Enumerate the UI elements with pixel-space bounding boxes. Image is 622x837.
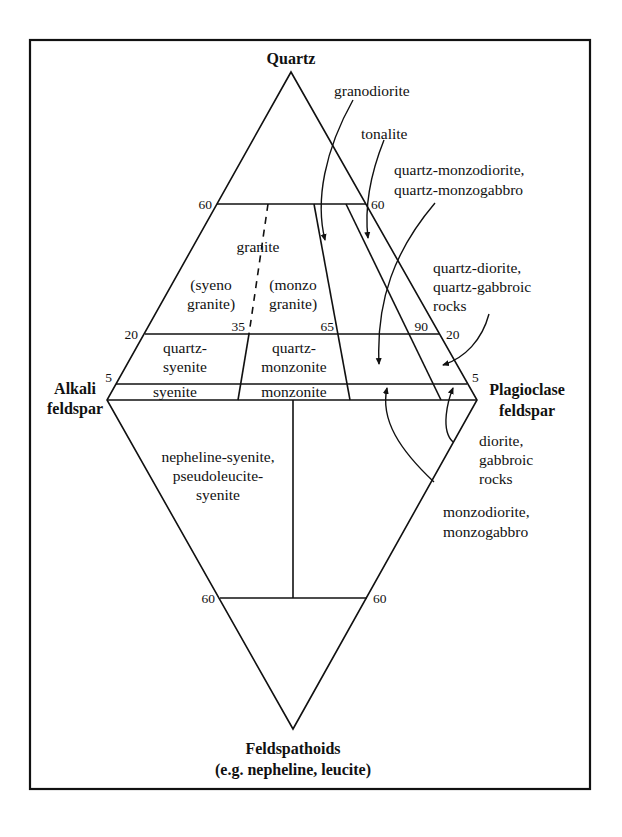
callout-diorite-1: diorite, xyxy=(479,432,523,449)
vertex-plagioclase-1: Plagioclase xyxy=(489,381,565,399)
tick-f60-right: 60 xyxy=(373,591,387,606)
tick-p65: 65 xyxy=(321,319,335,334)
tick-q60-left: 60 xyxy=(199,197,213,212)
field-quartz-monzonite-2: monzonite xyxy=(261,358,327,375)
p90-line xyxy=(346,204,441,400)
field-nepheline-syenite-1: nepheline-syenite, xyxy=(161,448,274,465)
field-quartz-monzonite-1: quartz- xyxy=(272,339,316,356)
granodiorite-arrow xyxy=(321,100,353,240)
callout-qmonzodiorite-1: quartz-monzodiorite, xyxy=(394,161,524,178)
field-monzogranite-1: (monzo xyxy=(269,276,317,294)
p35-line xyxy=(238,334,249,400)
callout-diorite-3: rocks xyxy=(479,470,513,487)
qmonzodiorite-arrow xyxy=(379,203,435,364)
vertex-alkali-feldspar-1: Alkali xyxy=(54,380,96,397)
field-granite: granite xyxy=(236,238,279,255)
callout-diorite-2: gabbroic xyxy=(479,451,533,468)
tick-q60-right: 60 xyxy=(371,197,385,212)
tick-q20-left: 20 xyxy=(125,327,139,342)
tonalite-arrow xyxy=(367,140,384,238)
tick-p90: 90 xyxy=(415,319,429,334)
field-syenogranite-2: granite) xyxy=(187,295,235,313)
vertex-feldspathoids-2: (e.g. nepheline, leucite) xyxy=(215,761,371,779)
tick-q5-right: 5 xyxy=(472,370,479,385)
vertex-quartz: Quartz xyxy=(267,50,316,67)
tick-p35: 35 xyxy=(232,319,246,334)
vertex-alkali-feldspar-2: feldspar xyxy=(47,400,103,418)
p35-dashed-line xyxy=(249,204,268,334)
field-nepheline-syenite-3: syenite xyxy=(196,486,240,503)
diorite-arrow xyxy=(446,388,453,442)
callout-tonalite: tonalite xyxy=(361,125,408,142)
callout-granodiorite: granodiorite xyxy=(334,82,410,99)
vertex-feldspathoids-1: Feldspathoids xyxy=(245,740,340,758)
callout-monzodiorite-2: monzogabbro xyxy=(443,523,528,540)
field-monzonite: monzonite xyxy=(261,383,327,400)
vertex-plagioclase-2: feldspar xyxy=(499,402,555,420)
field-syenite: syenite xyxy=(153,383,197,400)
qapf-diagram: Quartz Alkali feldspar Plagioclase felds… xyxy=(0,0,622,837)
field-quartz-syenite-2: syenite xyxy=(163,358,207,375)
callout-qmonzodiorite-2: quartz-monzogabbro xyxy=(394,181,523,198)
callout-qdiorite-2: quartz-gabbroic xyxy=(433,278,531,295)
field-quartz-syenite-1: quartz- xyxy=(163,339,207,356)
tick-q5-left: 5 xyxy=(105,370,112,385)
field-nepheline-syenite-2: pseudoleucite- xyxy=(173,467,263,484)
field-monzogranite-2: granite) xyxy=(269,295,317,313)
callout-qdiorite-3: rocks xyxy=(433,297,467,314)
monzodiorite-arrow xyxy=(386,388,434,482)
callout-qdiorite-1: quartz-diorite, xyxy=(433,259,521,276)
tick-q20-right: 20 xyxy=(446,327,460,342)
callout-monzodiorite-1: monzodiorite, xyxy=(443,503,530,520)
field-syenogranite-1: (syeno xyxy=(190,276,232,294)
tick-f60-left: 60 xyxy=(202,591,216,606)
